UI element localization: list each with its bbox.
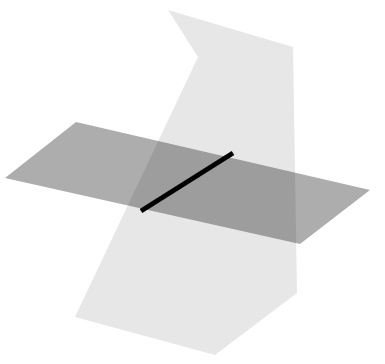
figure-container bbox=[0, 0, 385, 364]
intersecting-planes-diagram bbox=[0, 0, 385, 364]
